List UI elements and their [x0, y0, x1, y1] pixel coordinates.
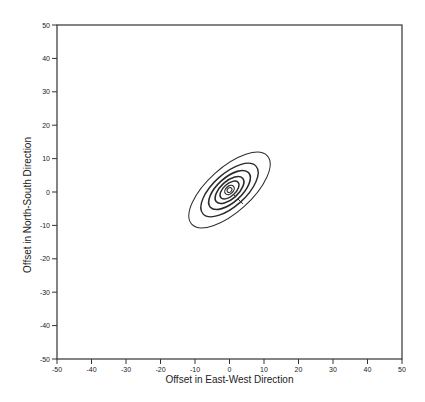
x-tick-label: 30: [329, 366, 337, 373]
x-tick-label: 40: [364, 366, 372, 373]
y-axis-label: Offset in North-South Direction: [22, 137, 33, 273]
contour-mark: [241, 202, 243, 204]
contour-level-4: [210, 172, 248, 209]
x-tick-label: 50: [398, 366, 406, 373]
y-tick-label: -20: [40, 255, 50, 262]
y-tick-label: -40: [40, 322, 50, 329]
x-tick-label: 0: [228, 366, 232, 373]
contour-label-marks: [234, 195, 243, 204]
contour-chart: -50-40-30-20-1001020304050 -50-40-30-20-…: [0, 0, 425, 402]
x-tick-label: -30: [121, 366, 131, 373]
contour-level-1: [177, 140, 282, 241]
contour-ellipses: [177, 140, 282, 241]
y-axis-ticks: -50-40-30-20-1001020304050: [40, 22, 57, 363]
y-tick-label: 30: [42, 88, 50, 95]
x-tick-label: -40: [86, 366, 96, 373]
y-tick-label: 50: [42, 22, 50, 29]
x-tick-label: -20: [155, 366, 165, 373]
y-tick-label: 20: [42, 122, 50, 129]
y-tick-label: 40: [42, 55, 50, 62]
x-tick-label: -10: [190, 366, 200, 373]
x-tick-label: -50: [52, 366, 62, 373]
y-tick-label: -10: [40, 222, 50, 229]
x-tick-label: 10: [260, 366, 268, 373]
contour-mark: [238, 199, 240, 201]
y-tick-label: 0: [46, 189, 50, 196]
y-tick-label: -30: [40, 289, 50, 296]
contour-level-2: [192, 154, 267, 226]
contour-level-3: [202, 164, 257, 217]
x-tick-label: 20: [295, 366, 303, 373]
x-axis-label: Offset in East-West Direction: [165, 374, 293, 385]
y-tick-label: 10: [42, 155, 50, 162]
y-tick-label: -50: [40, 356, 50, 363]
x-axis-ticks: -50-40-30-20-1001020304050: [52, 359, 406, 373]
